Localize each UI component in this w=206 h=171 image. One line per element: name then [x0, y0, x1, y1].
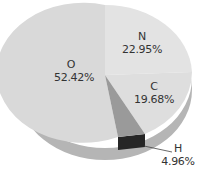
label-c: C 19.68% — [134, 80, 174, 106]
label-c-pct: 19.68% — [134, 93, 174, 106]
label-n-name: N — [122, 30, 162, 43]
label-h-pct: 4.96% — [160, 155, 196, 168]
label-o-name: O — [54, 58, 88, 71]
label-n-pct: 22.95% — [122, 43, 162, 56]
label-o: O 52.42% — [54, 58, 88, 84]
label-n: N 22.95% — [122, 30, 162, 56]
label-c-name: C — [134, 80, 174, 93]
label-o-pct: 52.42% — [54, 71, 88, 84]
label-h: H 4.96% — [160, 142, 196, 168]
label-h-name: H — [160, 142, 196, 155]
